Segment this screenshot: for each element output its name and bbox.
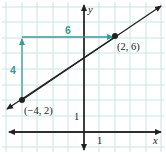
coordinate-graph: (−4, 2) (2, 6) 6 4 1 1 x y — [0, 0, 166, 154]
run-label: 6 — [65, 24, 71, 36]
rise-label: 4 — [10, 64, 16, 76]
y-unit-label: 1 — [74, 111, 79, 122]
point-b — [112, 33, 118, 39]
point-a-label: (−4, 2) — [24, 105, 53, 117]
grid — [2, 2, 164, 152]
point-a — [19, 97, 25, 103]
point-b-label: (2, 6) — [117, 41, 140, 53]
y-axis-label: y — [87, 4, 93, 15]
x-unit-label: 1 — [97, 135, 102, 146]
x-axis-label: x — [152, 135, 158, 146]
